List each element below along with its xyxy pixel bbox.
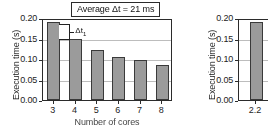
delta-t-label-text: Δt bbox=[75, 26, 83, 35]
x-tick-mark bbox=[140, 101, 141, 104]
bar bbox=[250, 22, 263, 100]
y-tick-label: 0.15 bbox=[0, 35, 37, 44]
bar bbox=[134, 60, 147, 100]
figure-root: Average Δt = 21 ms Execution time (s) 0.… bbox=[0, 0, 268, 133]
x-tick-mark bbox=[53, 101, 54, 104]
gridline bbox=[43, 60, 171, 61]
y-tick-label: 0.10 bbox=[196, 55, 233, 64]
y-tick-mark bbox=[39, 101, 42, 102]
bar bbox=[156, 65, 169, 100]
y-tick-label: 0.20 bbox=[0, 14, 37, 23]
x-tick-mark bbox=[118, 101, 119, 104]
delta-t-tick bbox=[70, 32, 74, 33]
x-tick-mark bbox=[75, 101, 76, 104]
bar bbox=[91, 50, 104, 100]
x-tick-mark bbox=[255, 101, 256, 104]
left-plot-frame: Δt1 bbox=[42, 19, 172, 101]
delta-t-bracket bbox=[59, 24, 70, 40]
y-tick-label: 0.00 bbox=[0, 96, 37, 105]
x-tick-mark bbox=[161, 101, 162, 104]
left-x-axis-title: Number of cores bbox=[42, 117, 172, 127]
bar bbox=[69, 39, 82, 101]
y-tick-label: 0.05 bbox=[0, 76, 37, 85]
y-tick-label: 0.15 bbox=[196, 35, 233, 44]
delta-t-label-sub: 1 bbox=[83, 31, 86, 37]
right-chart-panel: Execution time (s) 0.000.050.100.150.20 … bbox=[196, 0, 268, 133]
x-tick-label: 2.2 bbox=[241, 106, 268, 115]
y-tick-label: 0.05 bbox=[196, 76, 233, 85]
right-plot-frame bbox=[238, 19, 268, 101]
gridline bbox=[43, 81, 171, 82]
bar bbox=[112, 57, 125, 100]
x-tick-label: 8 bbox=[147, 106, 175, 115]
x-tick-mark bbox=[96, 101, 97, 104]
y-tick-label: 0.10 bbox=[0, 55, 37, 64]
y-tick-label: 0.00 bbox=[196, 96, 233, 105]
y-tick-mark bbox=[235, 101, 238, 102]
left-chart-panel: Execution time (s) 0.000.050.100.150.20 … bbox=[0, 0, 180, 133]
delta-t-label: Δt1 bbox=[75, 27, 86, 38]
y-tick-label: 0.20 bbox=[196, 14, 233, 23]
